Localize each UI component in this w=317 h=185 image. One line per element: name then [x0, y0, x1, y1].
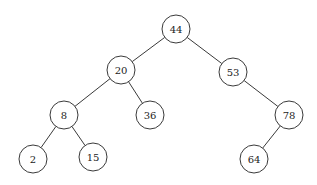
edge-8-15	[72, 127, 85, 146]
edge-78-64	[263, 126, 281, 148]
tree-node-8: 8	[50, 101, 78, 129]
node-label: 8	[61, 110, 67, 121]
tree-node-36: 36	[136, 101, 164, 129]
edge-8-2	[41, 126, 56, 147]
edge-44-20	[132, 37, 165, 61]
node-label: 78	[283, 110, 296, 121]
edge-20-36	[129, 82, 143, 103]
edge-44-53	[187, 37, 222, 63]
node-label: 15	[87, 152, 100, 163]
edge-20-8	[75, 79, 110, 107]
tree-node-44: 44	[162, 15, 190, 43]
node-label: 36	[144, 110, 157, 121]
tree-node-20: 20	[107, 56, 135, 84]
edges-group	[41, 37, 280, 148]
nodes-group: 4420538367821564	[19, 15, 303, 173]
tree-node-15: 15	[79, 143, 107, 171]
tree-node-78: 78	[275, 101, 303, 129]
tree-node-2: 2	[19, 145, 47, 173]
tree-diagram: 4420538367821564	[0, 0, 317, 185]
node-label: 20	[115, 65, 128, 76]
node-label: 53	[227, 67, 240, 78]
node-label: 64	[248, 154, 261, 165]
tree-node-53: 53	[219, 58, 247, 86]
edge-53-78	[244, 81, 278, 107]
tree-svg: 4420538367821564	[0, 0, 317, 185]
node-label: 2	[30, 154, 36, 165]
tree-node-64: 64	[240, 145, 268, 173]
node-label: 44	[170, 24, 183, 35]
